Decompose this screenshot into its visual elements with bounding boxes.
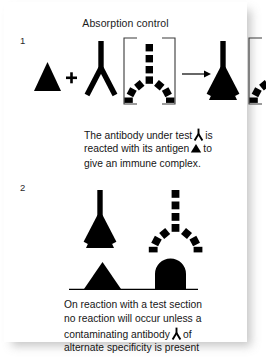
contaminating-antibody-dashed-icon-2 [249, 44, 266, 103]
step2-caption-line-4: alternate specificity is present [64, 341, 202, 355]
contaminating-antibody-dashed-icon-step2 [149, 190, 203, 252]
step2-shapes [4, 2, 247, 342]
figure-content: Absorption control 1 2 [4, 2, 247, 342]
immune-complex-icon-step2 [86, 190, 114, 248]
section-antigen-triangle-icon [84, 262, 121, 289]
inline-antibody-icon-2 [171, 327, 182, 340]
step2-caption-line-3-text-a: contaminating antibody [64, 329, 170, 340]
step2-caption-line-3-text-b: of [183, 329, 192, 340]
figure-page: Absorption control 1 2 [0, 0, 266, 358]
step2-caption-line-1: On reaction with a test section [64, 298, 202, 312]
section-dome-antigen-icon [155, 258, 186, 289]
step2-caption: On reaction with a test section no react… [64, 298, 202, 356]
step2-caption-line-3: contaminating antibodyof [64, 327, 202, 341]
figure-card: Absorption control 1 2 [4, 2, 247, 342]
step2-caption-line-2: no reaction will occur unless a [64, 312, 202, 326]
